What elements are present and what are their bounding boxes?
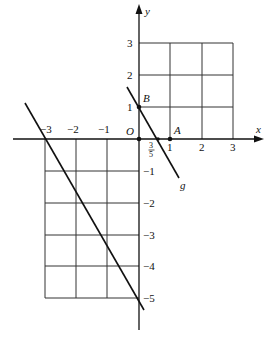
y-axis-arrow-icon [136, 4, 143, 14]
y-tick-neg3: −3 [143, 229, 155, 241]
fraction-three-fifths: 3 5 [149, 141, 155, 159]
y-axis-label: y [144, 5, 150, 17]
origin-label: O [126, 125, 134, 137]
point-a-label: A [173, 124, 181, 136]
x-axis-label: x [255, 123, 261, 135]
x-tick-2: 2 [199, 141, 205, 153]
y-tick-3: 3 [127, 37, 133, 49]
x-tick-neg3: −3 [40, 123, 52, 135]
y-tick-1: 1 [127, 101, 133, 113]
point-o [137, 137, 142, 142]
y-tick-neg5: −5 [143, 292, 155, 304]
y-tick-2: 2 [127, 69, 133, 81]
grid-first-quadrant [139, 43, 233, 139]
y-tick-neg2: −2 [143, 197, 155, 209]
fraction-denominator: 5 [149, 150, 153, 159]
x-tick-1: 1 [167, 141, 173, 153]
x-tick-neg1: −1 [98, 123, 110, 135]
y-tick-neg1: −1 [143, 165, 155, 177]
point-b [137, 105, 142, 110]
x-axis-arrow-icon [254, 136, 264, 143]
fraction-numerator: 3 [149, 141, 153, 150]
point-b-label: B [143, 92, 150, 104]
line-g-label: g [180, 179, 186, 191]
x-tick-3: 3 [230, 141, 236, 153]
point-x-intercept-g [156, 137, 160, 141]
coordinate-diagram: x y O A B g −3 −2 −1 1 2 3 3 5 3 2 1 −1 … [0, 0, 269, 340]
x-tick-neg2: −2 [67, 123, 79, 135]
y-tick-neg4: −4 [143, 260, 155, 272]
